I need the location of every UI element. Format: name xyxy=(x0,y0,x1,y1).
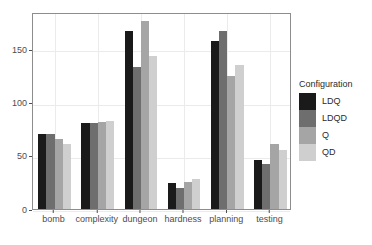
legend-swatch-LDQD xyxy=(299,110,316,127)
legend-item-Q: Q xyxy=(299,127,371,144)
y-axis-tick-label: 0 xyxy=(22,206,27,215)
bar-chart-figure: 050100150 bombcomplexitydungeonhardnessp… xyxy=(0,0,372,245)
x-axis-tick-mark xyxy=(96,210,97,213)
bar-bomb-LDQ xyxy=(38,134,46,209)
bar-testing-Q xyxy=(270,144,278,209)
bar-dungeon-QD xyxy=(149,56,157,209)
y-gridline xyxy=(33,158,290,159)
x-axis-tick-mark xyxy=(139,210,140,213)
bar-hardness-LDQD xyxy=(176,188,184,209)
bar-dungeon-LDQ xyxy=(125,31,133,209)
x-axis-tick: testing xyxy=(256,210,283,224)
x-axis-tick-mark xyxy=(269,210,270,213)
legend-title: Configuration xyxy=(299,80,371,89)
legend-label-LDQD: LDQD xyxy=(322,114,347,123)
legend-items: LDQLDQDQQD xyxy=(299,93,371,161)
bar-bomb-QD xyxy=(63,144,71,209)
legend-label-QD: QD xyxy=(322,148,336,157)
bar-testing-LDQD xyxy=(262,164,270,209)
plot-panel xyxy=(32,13,291,210)
legend-label-LDQ: LDQ xyxy=(322,97,341,106)
bar-complexity-QD xyxy=(106,121,114,209)
bar-bomb-LDQD xyxy=(46,134,54,209)
bar-planning-Q xyxy=(227,76,235,209)
x-axis-tick: complexity xyxy=(75,210,118,224)
y-axis-tick-label: 50 xyxy=(17,152,27,161)
legend-item-LDQD: LDQD xyxy=(299,110,371,127)
y-gridline xyxy=(33,105,290,106)
x-axis: bombcomplexitydungeonhardnessplanningtes… xyxy=(32,210,291,236)
x-axis-tick-label: complexity xyxy=(75,215,118,224)
bar-hardness-LDQ xyxy=(168,183,176,209)
bar-complexity-Q xyxy=(98,122,106,209)
y-axis-tick-label: 100 xyxy=(12,99,27,108)
y-gridline xyxy=(33,51,290,52)
bar-dungeon-LDQD xyxy=(133,67,141,209)
x-axis-tick-label: hardness xyxy=(165,215,202,224)
bar-bomb-Q xyxy=(55,139,63,209)
x-axis-tick: dungeon xyxy=(122,210,157,224)
legend-swatch-Q xyxy=(299,127,316,144)
bar-testing-QD xyxy=(279,150,287,209)
legend-item-LDQ: LDQ xyxy=(299,93,371,110)
x-axis-tick-mark xyxy=(226,210,227,213)
legend: Configuration LDQLDQDQQD xyxy=(299,80,371,161)
y-axis-tick-label: 150 xyxy=(12,46,27,55)
bar-hardness-Q xyxy=(184,182,192,209)
x-axis-tick-mark xyxy=(53,210,54,213)
x-axis-tick: hardness xyxy=(165,210,202,224)
bar-dungeon-Q xyxy=(141,21,149,209)
x-axis-tick: bomb xyxy=(42,210,65,224)
x-axis-tick: planning xyxy=(209,210,243,224)
x-gridline xyxy=(184,14,185,209)
bar-complexity-LDQD xyxy=(90,123,98,209)
y-axis: 050100150 xyxy=(0,13,32,210)
bar-complexity-LDQ xyxy=(81,123,89,209)
x-axis-tick-label: planning xyxy=(209,215,243,224)
bar-planning-LDQ xyxy=(211,41,219,209)
x-axis-tick-label: testing xyxy=(256,215,283,224)
bar-planning-QD xyxy=(235,65,243,209)
bar-hardness-QD xyxy=(192,179,200,209)
legend-item-QD: QD xyxy=(299,144,371,161)
legend-label-Q: Q xyxy=(322,131,329,140)
x-axis-tick-label: dungeon xyxy=(122,215,157,224)
legend-swatch-LDQ xyxy=(299,93,316,110)
bar-planning-LDQD xyxy=(219,31,227,209)
x-axis-tick-label: bomb xyxy=(42,215,65,224)
bar-testing-LDQ xyxy=(254,160,262,209)
x-axis-tick-mark xyxy=(183,210,184,213)
legend-swatch-QD xyxy=(299,144,316,161)
